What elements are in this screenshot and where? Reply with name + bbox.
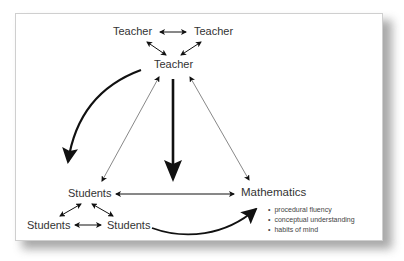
- arrow-students-top-left: [60, 204, 81, 216]
- node-students-top: Students: [68, 188, 111, 199]
- node-students-right: Students: [107, 220, 150, 231]
- arrow-teacher-math-thin: [190, 77, 249, 180]
- node-teacher-center: Teacher: [154, 59, 193, 70]
- bullet-habits-of-mind: habits of mind: [268, 225, 355, 235]
- bullet-procedural-fluency: procedural fluency: [268, 205, 355, 215]
- arrow-teacher-right-center: [181, 42, 201, 55]
- mathematics-bullet-list: procedural fluency conceptual understand…: [268, 205, 355, 235]
- node-students-left: Students: [27, 220, 70, 231]
- arrow-teacher-students-thin: [102, 77, 159, 181]
- arrow-students-top-right: [92, 204, 113, 216]
- arrow-teacher-to-students-curved: [68, 70, 141, 162]
- bullet-conceptual-understanding: conceptual understanding: [268, 215, 355, 225]
- arrow-teacher-left-center: [147, 42, 166, 55]
- node-mathematics: Mathematics: [241, 187, 306, 199]
- node-teacher-right: Teacher: [194, 26, 233, 37]
- arrow-students-to-math-curved: [152, 209, 256, 234]
- node-teacher-left: Teacher: [113, 26, 152, 37]
